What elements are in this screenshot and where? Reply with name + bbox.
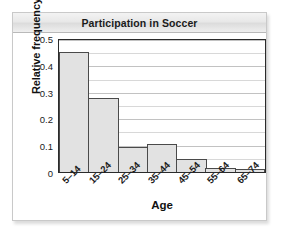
y-tick-label: 0.1 (40, 141, 53, 152)
plot-area (58, 39, 266, 173)
y-tick-label: 0 (48, 168, 53, 179)
y-tick-label: 0.2 (40, 114, 53, 125)
y-tick-label: 0.3 (40, 87, 53, 98)
chart-title-bar: Participation in Soccer (13, 13, 266, 33)
x-axis-title: Age (58, 199, 266, 211)
bar (59, 52, 89, 172)
y-tick-label: 0.4 (40, 60, 53, 71)
y-tick-label: 0.5 (40, 34, 53, 45)
chart-title: Participation in Soccer (81, 17, 197, 29)
bar-series (59, 40, 265, 172)
chart-card: Participation in Soccer Relative frequen… (12, 12, 267, 221)
y-axis-tick-labels: 00.10.20.30.40.5 (13, 39, 56, 173)
